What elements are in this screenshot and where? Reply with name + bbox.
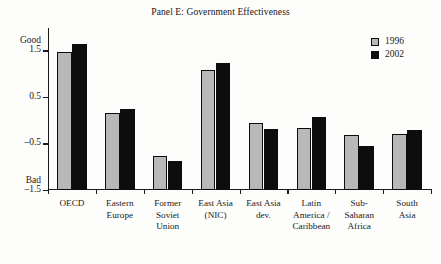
bar [72, 44, 87, 190]
legend-label: 2002 [385, 50, 404, 60]
y-tick-mark [43, 50, 48, 51]
bar [392, 134, 407, 190]
y-axis-line [48, 28, 49, 190]
x-tick-mark [240, 189, 241, 194]
y-tick-mark [43, 97, 48, 98]
bar [407, 130, 422, 190]
bar [264, 129, 279, 190]
y-tick-label: –0.5 [24, 139, 41, 149]
x-tick-mark [335, 189, 336, 194]
legend-item: 2002 [371, 48, 404, 61]
x-tick-mark [96, 189, 97, 194]
x-tick-mark [192, 189, 193, 194]
y-tick-label: 0.5 [29, 92, 41, 102]
y-tick-mark [43, 143, 48, 144]
chart-title: Panel E: Government Effectiveness [0, 7, 441, 17]
chart-figure: Panel E: Government Effectiveness 1.50.5… [0, 0, 441, 264]
bar [120, 109, 135, 190]
bar [57, 52, 72, 190]
x-tick-mark [383, 189, 384, 194]
x-tick-label: South Asia [374, 198, 440, 221]
legend-label: 1996 [385, 37, 404, 47]
legend-swatch-icon [371, 51, 379, 59]
bar [168, 161, 183, 190]
chart-legend: 19962002 [371, 35, 404, 61]
x-tick-mark [144, 189, 145, 194]
x-tick-mark [431, 189, 432, 194]
y-tick-label: 1.5 [29, 46, 41, 56]
bar [359, 146, 374, 190]
y-tick-label: –1.5 [24, 185, 41, 195]
bar [105, 113, 120, 190]
bar [153, 156, 168, 190]
x-tick-mark [48, 189, 49, 194]
bar [201, 70, 216, 190]
legend-item: 1996 [371, 35, 404, 48]
y-axis-low-label: Bad [26, 176, 41, 186]
x-tick-mark [287, 189, 288, 194]
legend-swatch-icon [371, 38, 379, 46]
bar [297, 128, 312, 190]
bar [344, 135, 359, 190]
bar [249, 123, 264, 190]
bar [216, 63, 231, 190]
y-axis-high-label: Good [20, 36, 41, 46]
bar [312, 117, 327, 190]
